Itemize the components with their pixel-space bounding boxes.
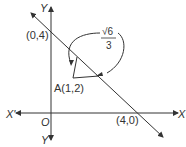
y-intercept-label: (0,4) <box>26 29 49 41</box>
point-a-label: A(1,2) <box>54 82 84 94</box>
arc-arrow-right <box>96 72 103 76</box>
coordinate-diagram: √6 3 Y Y' X X' O (0,4) (4,0) A(1,2) <box>0 0 186 147</box>
y-axis-label: Y <box>40 2 48 14</box>
origin-label: O <box>41 116 50 128</box>
distance-numerator: √6 <box>102 26 113 37</box>
arc-arrow-left <box>69 60 74 66</box>
perpendicular-triangle <box>73 57 99 78</box>
x-intercept-label: (4,0) <box>116 114 139 126</box>
x-neg-label: X' <box>5 108 16 120</box>
distance-denominator: 3 <box>106 40 112 51</box>
distance-arc <box>69 33 124 73</box>
x-axis-label: X <box>177 108 186 120</box>
y-neg-label: Y' <box>41 134 51 146</box>
